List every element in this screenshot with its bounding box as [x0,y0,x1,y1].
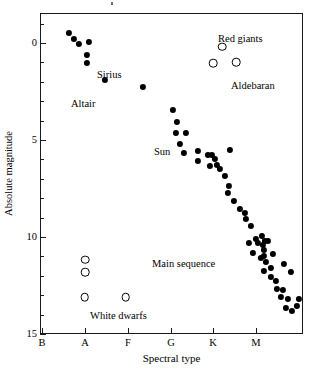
x-tick-label: G [167,337,175,348]
plot-annotation: Altair [71,98,96,109]
y-tick-minor [40,101,44,102]
x-tick [256,328,257,334]
y-tick-minor [40,62,44,63]
plot-annotation: Red giants [218,33,263,44]
x-tick-label: K [209,337,217,348]
x-tick [42,328,43,334]
x-tick-label: F [125,337,131,348]
y-tick-minor [40,198,44,199]
y-tick-major [40,334,46,335]
hr-diagram-figure: 051015BAFGKM Red giantsSiriusAldebaranAl… [0,0,315,376]
plot-annotation: Aldebaran [231,80,275,91]
y-axis-title: Absolute magnitude [2,13,16,334]
plot-annotation: Sirius [97,69,122,80]
plot-annotation: White dwarfs [90,310,147,321]
x-axis-title: Spectral type [40,352,303,364]
y-tick-minor [40,295,44,296]
y-tick-minor [40,159,44,160]
x-tick [85,328,86,334]
y-tick-major [40,43,46,44]
y-tick-major [40,237,46,238]
y-tick-minor [40,121,44,122]
stray-speck [111,2,113,5]
y-tick-minor [40,276,44,277]
y-tick-major [40,140,46,141]
x-tick [128,328,129,334]
y-tick-minor [40,256,44,257]
plot-annotation: Sun [154,146,170,157]
y-tick-label: 5 [32,135,37,146]
y-tick-minor [40,218,44,219]
plot-annotation: Main sequence [152,258,215,269]
y-tick-label: 15 [27,329,38,340]
x-tick [213,328,214,334]
y-tick-minor [40,179,44,180]
x-tick-label: B [38,337,45,348]
y-tick-label: 10 [27,232,38,243]
x-tick-label: A [81,337,89,348]
y-tick-minor [40,82,44,83]
y-tick-minor [40,24,44,25]
x-tick [171,328,172,334]
x-tick-label: M [251,337,260,348]
plot-area [40,13,303,334]
y-tick-minor [40,315,44,316]
y-tick-label: 0 [32,38,37,49]
